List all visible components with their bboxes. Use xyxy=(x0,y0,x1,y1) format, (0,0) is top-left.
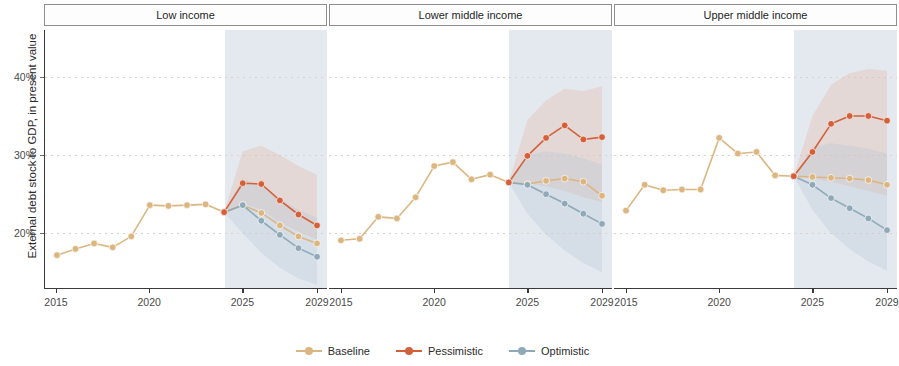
point-baseline xyxy=(431,163,438,170)
point-optimistic xyxy=(239,202,246,209)
x-tick-mark xyxy=(317,289,318,293)
panel-upper-middle-income: Upper middle income2015202020252029 xyxy=(614,4,897,314)
legend-item-baseline[interactable]: Baseline xyxy=(296,345,370,357)
point-baseline xyxy=(412,194,419,201)
point-baseline xyxy=(828,174,835,181)
point-baseline xyxy=(580,178,587,185)
point-baseline xyxy=(543,177,550,184)
confidence-ribbon xyxy=(509,151,602,272)
x-tick-mark xyxy=(527,289,528,293)
point-pessimistic xyxy=(809,149,816,156)
x-tick-label: 2029 xyxy=(875,296,898,308)
point-baseline xyxy=(697,186,704,193)
legend-swatch xyxy=(296,350,322,352)
point-pessimistic xyxy=(865,113,872,120)
point-baseline xyxy=(72,246,79,253)
point-pessimistic xyxy=(505,179,512,186)
series-layer xyxy=(45,30,327,288)
point-pessimistic xyxy=(580,136,587,143)
point-pessimistic xyxy=(239,180,246,187)
point-optimistic xyxy=(295,245,302,252)
point-baseline xyxy=(772,172,779,179)
point-baseline xyxy=(599,192,606,199)
point-optimistic xyxy=(828,195,835,202)
point-baseline xyxy=(623,207,630,214)
point-pessimistic xyxy=(790,173,797,180)
point-pessimistic xyxy=(295,211,302,218)
legend-label: Optimistic xyxy=(541,345,589,357)
x-tick-mark xyxy=(626,289,627,293)
panel-title: Upper middle income xyxy=(614,4,897,26)
legend-label: Baseline xyxy=(328,345,370,357)
point-baseline xyxy=(375,213,382,220)
point-baseline xyxy=(109,244,116,251)
point-pessimistic xyxy=(543,134,550,141)
x-tick-label: 2020 xyxy=(708,296,731,308)
point-baseline xyxy=(338,237,345,244)
point-optimistic xyxy=(809,181,816,188)
point-pessimistic xyxy=(828,120,835,127)
point-baseline xyxy=(165,203,172,210)
x-tick-label: 2029 xyxy=(590,296,613,308)
legend-marker-icon xyxy=(405,347,413,355)
confidence-ribbon xyxy=(794,143,887,270)
point-optimistic xyxy=(846,205,853,212)
point-optimistic xyxy=(865,215,872,222)
point-baseline xyxy=(128,233,135,240)
panel-title: Lower middle income xyxy=(329,4,612,26)
point-baseline xyxy=(679,186,686,193)
x-tick-mark xyxy=(812,289,813,293)
point-baseline xyxy=(734,150,741,157)
point-baseline xyxy=(184,202,191,209)
x-tick-label: 2029 xyxy=(305,296,328,308)
x-tick-mark xyxy=(887,289,888,293)
x-tick-label: 2015 xyxy=(329,296,352,308)
point-optimistic xyxy=(599,220,606,227)
legend-item-optimistic[interactable]: Optimistic xyxy=(509,345,589,357)
point-baseline xyxy=(91,240,98,247)
point-baseline xyxy=(716,134,723,141)
point-pessimistic xyxy=(258,181,265,188)
point-baseline xyxy=(468,176,475,183)
y-tick-label: 20% xyxy=(14,227,35,239)
panel-title: Low income xyxy=(44,4,327,26)
y-tick-label: 30% xyxy=(14,149,35,161)
x-tick-mark xyxy=(242,289,243,293)
point-pessimistic xyxy=(276,197,283,204)
point-pessimistic xyxy=(884,117,891,124)
point-baseline xyxy=(865,177,872,184)
point-baseline xyxy=(356,235,363,242)
x-tick-mark xyxy=(341,289,342,293)
x-tick-mark xyxy=(602,289,603,293)
x-axis-line xyxy=(614,288,897,289)
point-pessimistic xyxy=(846,113,853,120)
point-baseline xyxy=(809,174,816,181)
point-baseline xyxy=(660,187,667,194)
legend-item-pessimistic[interactable]: Pessimistic xyxy=(396,345,483,357)
plot-area xyxy=(329,30,612,288)
x-tick-label: 2015 xyxy=(614,296,637,308)
point-baseline xyxy=(146,202,153,209)
x-tick-mark xyxy=(434,289,435,293)
x-tick-mark xyxy=(719,289,720,293)
point-optimistic xyxy=(314,253,321,260)
legend-swatch xyxy=(509,350,535,352)
plot-area xyxy=(44,30,327,288)
point-baseline xyxy=(846,175,853,182)
x-tick-label: 2020 xyxy=(423,296,446,308)
point-optimistic xyxy=(561,200,568,207)
point-pessimistic xyxy=(221,209,228,216)
point-optimistic xyxy=(580,210,587,217)
legend-marker-icon xyxy=(518,347,526,355)
point-optimistic xyxy=(524,181,531,188)
point-pessimistic xyxy=(599,134,606,141)
point-baseline xyxy=(641,181,648,188)
point-baseline xyxy=(54,252,61,259)
x-axis-line xyxy=(44,288,327,289)
plot-area xyxy=(614,30,897,288)
point-pessimistic xyxy=(561,122,568,129)
point-baseline xyxy=(449,159,456,166)
y-tick-label: 40% xyxy=(14,71,35,83)
point-baseline xyxy=(295,233,302,240)
